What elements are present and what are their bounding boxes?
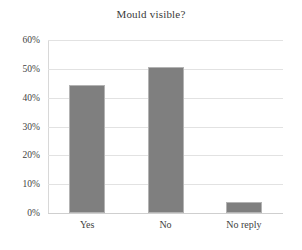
y-axis-tick-label: 30% bbox=[0, 122, 44, 132]
y-axis-tick-label: 20% bbox=[0, 150, 44, 160]
x-axis-tick-labels: YesNoNo reply bbox=[48, 219, 283, 243]
y-axis-tick-label: 10% bbox=[0, 179, 44, 189]
y-axis-tick-label: 0% bbox=[0, 208, 44, 218]
x-axis-tick-label: Yes bbox=[80, 219, 95, 230]
bar bbox=[148, 67, 184, 213]
bar-series bbox=[48, 40, 283, 213]
bar bbox=[226, 202, 262, 213]
gridline bbox=[48, 213, 283, 214]
bar bbox=[69, 85, 105, 213]
x-axis-tick-label: No bbox=[159, 219, 171, 230]
y-axis-tick-labels: 0%10%20%30%40%50%60% bbox=[0, 40, 44, 213]
bar-chart-figure: Mould visible? 0%10%20%30%40%50%60% YesN… bbox=[0, 0, 302, 250]
y-axis-tick-label: 40% bbox=[0, 93, 44, 103]
y-axis-tick-label: 60% bbox=[0, 35, 44, 45]
plot-area bbox=[48, 40, 283, 213]
y-axis-tick-label: 50% bbox=[0, 64, 44, 74]
chart-title: Mould visible? bbox=[0, 8, 302, 20]
x-axis-tick-label: No reply bbox=[226, 219, 261, 230]
